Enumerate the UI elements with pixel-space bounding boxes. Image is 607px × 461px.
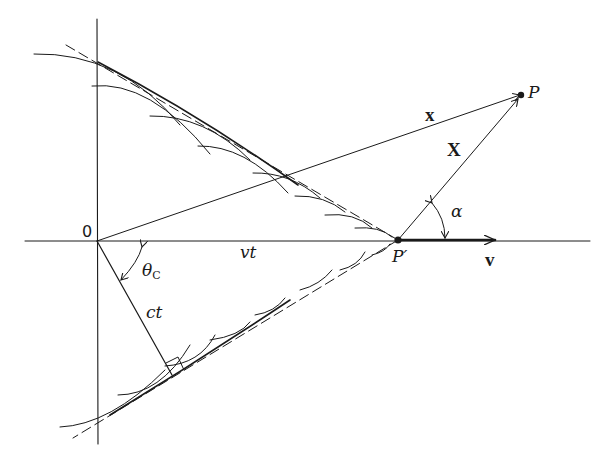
point-P-prime <box>394 236 401 243</box>
theta-angle-arc <box>121 247 142 280</box>
cherenkov-diagram: 0 vt ct θC x X α P P′ v <box>0 0 607 461</box>
x-vector-label: x <box>425 105 435 124</box>
alpha-label: α <box>451 203 462 220</box>
point-P <box>518 92 524 98</box>
alpha-angle-arc <box>432 203 445 238</box>
vertical-axis <box>97 19 98 444</box>
ct-label: ct <box>146 304 162 321</box>
origin-label: 0 <box>82 224 92 240</box>
vt-label: vt <box>240 244 256 261</box>
X-vector-label: X <box>447 140 461 159</box>
cone-upper <box>66 45 398 240</box>
P-label: P <box>528 84 539 101</box>
P-prime-label: P′ <box>392 248 407 265</box>
theta-c-label: θC <box>142 262 161 281</box>
v-vector-label: v <box>485 250 495 269</box>
